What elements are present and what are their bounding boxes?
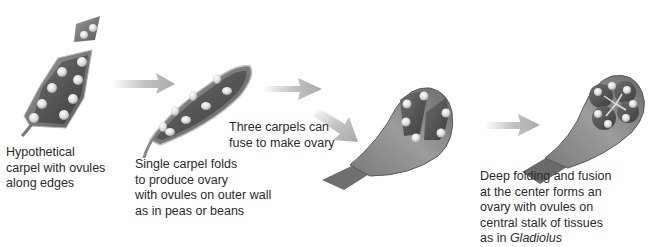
arrow-4 [484, 114, 540, 136]
central-stalk-illustration [522, 75, 644, 184]
caption-line: with ovules on outer wall [135, 188, 271, 204]
caption-line: ovary with ovules on [480, 200, 611, 216]
caption-line: fuse to make ovary [229, 136, 335, 152]
caption-line: central stalk of tissues [480, 216, 611, 232]
caption-line: Deep folding and fusion [480, 169, 611, 185]
caption-line: at the center forms an [480, 185, 611, 201]
hypothetical-carpel-illustration [22, 16, 100, 136]
caption-three-carpels: Three carpels can fuse to make ovary [229, 120, 335, 151]
caption-single-carpel: Single carpel folds to produce ovary wit… [135, 157, 271, 219]
carpel-evolution-diagram: Hypothetical carpel with ovules along ed… [0, 0, 654, 247]
caption-line: Three carpels can [229, 120, 335, 136]
caption-line: carpel with ovules [6, 161, 105, 177]
caption-line: Single carpel folds [135, 157, 271, 173]
caption-text: as in [480, 231, 510, 245]
arrow-2 [262, 78, 322, 100]
caption-central-stalk: Deep folding and fusion at the center fo… [480, 169, 611, 247]
caption-line: along edges [6, 176, 105, 192]
caption-line: to produce ovary [135, 173, 271, 189]
caption-hypothetical-carpel: Hypothetical carpel with ovules along ed… [6, 145, 105, 192]
arrow-1 [112, 73, 175, 94]
genus-name: Gladiolus [510, 231, 562, 245]
caption-line: as in Gladiolus [480, 231, 611, 247]
caption-line: Hypothetical [6, 145, 105, 161]
caption-line: as in peas or beans [135, 204, 271, 220]
